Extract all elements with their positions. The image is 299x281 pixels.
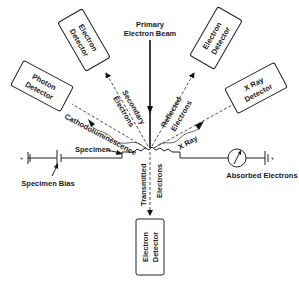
transmitted-electron-path: Transmitted Electrons bbox=[139, 152, 164, 215]
xray-arrowhead bbox=[195, 121, 204, 130]
transmitted-electron-detector: Electron Detector bbox=[136, 219, 164, 275]
secondary-detector-box bbox=[58, 9, 110, 71]
xray-detector: X Ray Detector bbox=[225, 62, 288, 113]
transmitted-electrons-label-line1: Transmitted bbox=[139, 163, 148, 206]
primary-beam-label-line1: Primary bbox=[136, 20, 165, 29]
transmitted-detector-line1: Electron bbox=[141, 232, 150, 262]
xray-label: X Ray bbox=[177, 133, 200, 152]
absorbed-electrons-label: Absorbed Electrons bbox=[226, 171, 297, 180]
primary-beam-arrow bbox=[147, 106, 153, 114]
specimen-label: Specimen bbox=[75, 145, 111, 154]
primary-beam-label-line2: Electron Beam bbox=[124, 29, 177, 38]
ground-right-symbol: + bbox=[271, 155, 274, 161]
reflected-electron-detector: Electron Detector bbox=[190, 7, 242, 69]
secondary-electron-detector: Electron Detector bbox=[58, 9, 110, 71]
reflected-detector-box bbox=[190, 7, 242, 69]
specimen-bias-label: Specimen Bias bbox=[21, 179, 74, 188]
bias-battery-gap bbox=[58, 157, 61, 159]
sem-signal-diagram: Primary Electron Beam + Specimen Bias Sp… bbox=[0, 0, 299, 281]
reflected-electron-path: Reflected Electrons bbox=[152, 73, 194, 146]
photon-detector: Photon Detector bbox=[11, 60, 74, 111]
ammeter-needle bbox=[234, 152, 240, 164]
transmitted-electrons-label-line2: Electrons bbox=[155, 164, 164, 198]
ground-left-symbol: + bbox=[20, 155, 23, 161]
xray-detector-box bbox=[225, 62, 288, 113]
transmitted-detector-line2: Detector bbox=[151, 232, 160, 263]
photon-detector-box bbox=[11, 60, 74, 111]
